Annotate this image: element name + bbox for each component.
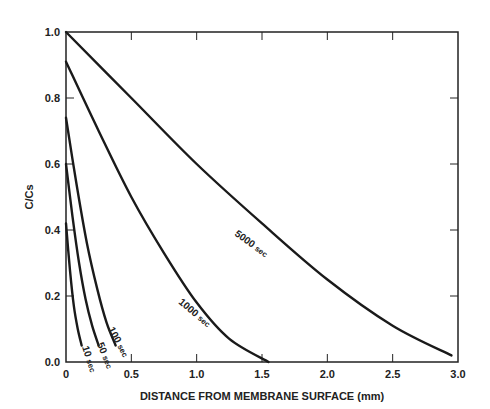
curve-label: 5000 sec [233, 228, 271, 260]
axis-ticks [66, 32, 458, 362]
y-tick-label: 0.2 [45, 290, 60, 302]
curve-labels: 10 sec50 sec100 sec1000 sec5000 sec [80, 228, 271, 374]
curve-1000-sec [66, 62, 269, 362]
x-tick-label: 2.0 [320, 368, 335, 380]
x-tick-label: 2.5 [385, 368, 400, 380]
y-tick-label: 0.6 [45, 158, 60, 170]
concentration-profile-chart: 00.51.01.52.02.53.0 0.00.20.40.60.81.0 1… [0, 0, 490, 409]
x-tick-label: 3.0 [450, 368, 465, 380]
y-tick-label: 1.0 [45, 26, 60, 38]
curve-label: 10 sec [80, 344, 99, 374]
y-tick-label: 0.0 [45, 356, 60, 368]
y-axis-title: C/Cs [23, 184, 35, 209]
curves [66, 32, 451, 362]
curve-label: 50 sec [95, 341, 116, 371]
x-axis-title: DISTANCE FROM MEMBRANE SURFACE (mm) [140, 390, 385, 402]
y-tick-labels: 0.00.20.40.60.81.0 [45, 26, 61, 368]
y-tick-label: 0.4 [45, 224, 61, 236]
plot-frame [66, 32, 458, 362]
x-tick-label: 0 [63, 368, 69, 380]
curve-5000-sec [66, 32, 451, 355]
x-tick-labels: 00.51.01.52.02.53.0 [63, 368, 466, 380]
x-tick-label: 0.5 [124, 368, 139, 380]
curve-10-sec [66, 223, 82, 345]
curve-label: 100 sec [106, 325, 131, 360]
x-tick-label: 1.0 [189, 368, 204, 380]
y-tick-label: 0.8 [45, 92, 60, 104]
x-tick-label: 1.5 [254, 368, 269, 380]
curve-50-sec [66, 164, 99, 346]
